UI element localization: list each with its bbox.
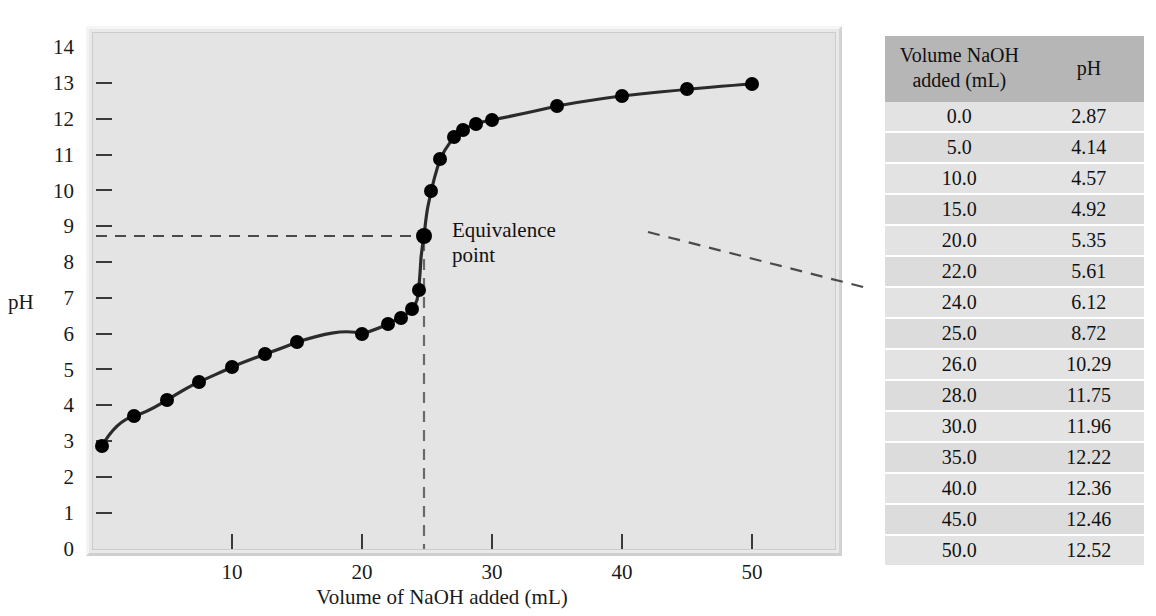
y-axis-title: pH bbox=[8, 290, 34, 315]
column-header-volume-line1: Volume NaOH bbox=[889, 43, 1030, 68]
titration-data-table: Volume NaOH added (mL) pH 0.02.875.04.14… bbox=[885, 36, 1144, 567]
cell-ph: 4.57 bbox=[1034, 163, 1144, 194]
table-row: 35.012.22 bbox=[885, 442, 1144, 473]
cell-volume: 20.0 bbox=[885, 225, 1034, 256]
y-tick-label-10: 10 bbox=[34, 181, 74, 202]
y-tick-label-1: 1 bbox=[34, 503, 74, 524]
cell-volume: 40.0 bbox=[885, 473, 1034, 504]
cell-ph: 6.12 bbox=[1034, 287, 1144, 318]
cell-volume: 22.0 bbox=[885, 256, 1034, 287]
y-tick-label-4: 4 bbox=[34, 395, 74, 416]
column-header-ph: pH bbox=[1034, 36, 1144, 102]
cell-ph: 5.61 bbox=[1034, 256, 1144, 287]
cell-volume: 15.0 bbox=[885, 194, 1034, 225]
x-axis-title: Volume of NaOH added (mL) bbox=[232, 585, 652, 610]
table-body: 0.02.875.04.1410.04.5715.04.9220.05.3522… bbox=[885, 102, 1144, 566]
equivalence-point-annotation: Equivalence point bbox=[452, 218, 642, 268]
table-row: 10.04.57 bbox=[885, 163, 1144, 194]
annotation-line-2: point bbox=[452, 243, 642, 268]
x-tick-label-50: 50 bbox=[728, 562, 776, 583]
x-tick-label-30: 30 bbox=[468, 562, 516, 583]
cell-volume: 5.0 bbox=[885, 132, 1034, 163]
table-row: 40.012.36 bbox=[885, 473, 1144, 504]
cell-volume: 10.0 bbox=[885, 163, 1034, 194]
cell-ph: 4.14 bbox=[1034, 132, 1144, 163]
table-row: 5.04.14 bbox=[885, 132, 1144, 163]
cell-ph: 12.52 bbox=[1034, 535, 1144, 566]
cell-ph: 11.96 bbox=[1034, 411, 1144, 442]
y-tick-label-5: 5 bbox=[34, 360, 74, 381]
table-row: 15.04.92 bbox=[885, 194, 1144, 225]
table-row: 20.05.35 bbox=[885, 225, 1144, 256]
cell-ph: 10.29 bbox=[1034, 349, 1144, 380]
cell-ph: 8.72 bbox=[1034, 318, 1144, 349]
y-tick-label-6: 6 bbox=[34, 324, 74, 345]
cell-volume: 35.0 bbox=[885, 442, 1034, 473]
x-tick-label-20: 20 bbox=[338, 562, 386, 583]
table-row: 45.012.46 bbox=[885, 504, 1144, 535]
cell-volume: 50.0 bbox=[885, 535, 1034, 566]
cell-ph: 2.87 bbox=[1034, 102, 1144, 132]
annotation-line-1: Equivalence bbox=[452, 218, 642, 243]
y-tick-label-8: 8 bbox=[34, 252, 74, 273]
y-tick-label-0: 0 bbox=[34, 539, 74, 560]
table-header: Volume NaOH added (mL) pH bbox=[885, 36, 1144, 102]
cell-volume: 26.0 bbox=[885, 349, 1034, 380]
table-row: 50.012.52 bbox=[885, 535, 1144, 566]
cell-ph: 5.35 bbox=[1034, 225, 1144, 256]
column-header-volume-line2: added (mL) bbox=[889, 68, 1030, 93]
cell-ph: 12.46 bbox=[1034, 504, 1144, 535]
cell-volume: 45.0 bbox=[885, 504, 1034, 535]
column-header-volume: Volume NaOH added (mL) bbox=[885, 36, 1034, 102]
titration-figure: pH 14 13 12 11 10 9 8 7 6 5 4 3 2 1 0 10… bbox=[0, 0, 1156, 616]
table-row: 24.06.12 bbox=[885, 287, 1144, 318]
table-row: 26.010.29 bbox=[885, 349, 1144, 380]
y-tick-label-14: 14 bbox=[34, 37, 74, 58]
y-tick-label-2: 2 bbox=[34, 467, 74, 488]
cell-volume: 24.0 bbox=[885, 287, 1034, 318]
table-row: 22.05.61 bbox=[885, 256, 1144, 287]
table-row: 25.08.72 bbox=[885, 318, 1144, 349]
x-tick-label-10: 10 bbox=[208, 562, 256, 583]
cell-ph: 11.75 bbox=[1034, 380, 1144, 411]
cell-ph: 4.92 bbox=[1034, 194, 1144, 225]
table-row: 28.011.75 bbox=[885, 380, 1144, 411]
cell-ph: 12.22 bbox=[1034, 442, 1144, 473]
table-header-row: Volume NaOH added (mL) pH bbox=[885, 36, 1144, 102]
y-tick-label-3: 3 bbox=[34, 431, 74, 452]
y-tick-label-9: 9 bbox=[34, 216, 74, 237]
y-tick-label-11: 11 bbox=[34, 145, 74, 166]
cell-volume: 25.0 bbox=[885, 318, 1034, 349]
y-tick-label-12: 12 bbox=[34, 109, 74, 130]
y-tick-label-13: 13 bbox=[34, 73, 74, 94]
table-row: 30.011.96 bbox=[885, 411, 1144, 442]
table-row: 0.02.87 bbox=[885, 102, 1144, 132]
cell-volume: 0.0 bbox=[885, 102, 1034, 132]
cell-volume: 28.0 bbox=[885, 380, 1034, 411]
plot-area bbox=[92, 32, 836, 550]
x-tick-label-40: 40 bbox=[598, 562, 646, 583]
cell-volume: 30.0 bbox=[885, 411, 1034, 442]
cell-ph: 12.36 bbox=[1034, 473, 1144, 504]
y-tick-label-7: 7 bbox=[34, 288, 74, 309]
titration-chart: pH 14 13 12 11 10 9 8 7 6 5 4 3 2 1 0 10… bbox=[0, 0, 870, 616]
